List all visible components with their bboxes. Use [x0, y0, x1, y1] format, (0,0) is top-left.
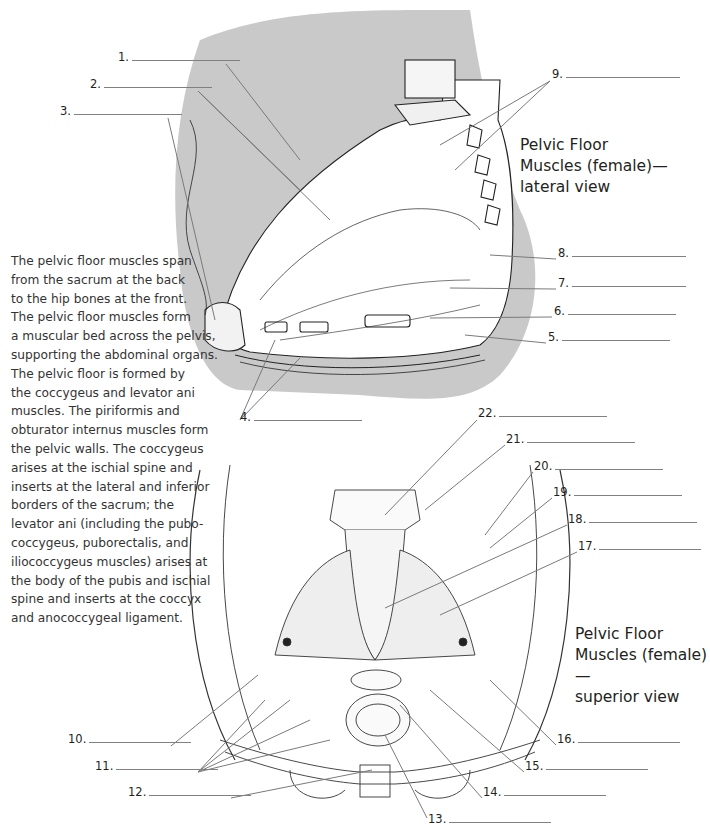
label-number: 17.	[578, 539, 596, 553]
label-number: 18.	[568, 512, 586, 526]
label-blank-6[interactable]: 6.	[554, 304, 676, 318]
answer-line[interactable]	[527, 441, 635, 443]
label-number: 21.	[506, 432, 524, 446]
description-line: the pelvic walls. The coccygeus	[11, 440, 236, 459]
answer-line[interactable]	[116, 768, 218, 770]
description-line: and anococcygeal ligament.	[11, 609, 236, 628]
label-blank-5[interactable]: 5.	[548, 330, 670, 344]
answer-line[interactable]	[562, 339, 670, 341]
title-line: Pelvic Floor	[575, 624, 710, 645]
answer-line[interactable]	[572, 255, 686, 257]
label-blank-7[interactable]: 7.	[558, 276, 686, 290]
answer-line[interactable]	[254, 419, 362, 421]
label-number: 16.	[557, 732, 575, 746]
answer-line[interactable]	[89, 741, 191, 743]
title-line: superior view	[575, 687, 710, 708]
description-line: The pelvic floor muscles form	[11, 308, 236, 327]
label-blank-10[interactable]: 10.	[68, 732, 191, 746]
label-number: 15.	[525, 759, 543, 773]
label-number: 5.	[548, 330, 559, 344]
title-line: Muscles (female)—	[520, 156, 668, 177]
label-number: 6.	[554, 304, 565, 318]
label-blank-18[interactable]: 18.	[568, 512, 697, 526]
answer-line[interactable]	[504, 794, 606, 796]
label-blank-19[interactable]: 19.	[553, 485, 682, 499]
description-line: arises at the ischial spine and	[11, 459, 236, 478]
label-number: 9.	[552, 67, 563, 81]
description-line: the body of the pubis and ischial	[11, 572, 236, 591]
answer-line[interactable]	[572, 285, 686, 287]
answer-line[interactable]	[568, 313, 676, 315]
description-line: coccygeus, puborectalis, and	[11, 534, 236, 553]
label-number: 7.	[558, 276, 569, 290]
label-number: 11.	[95, 759, 113, 773]
answer-line[interactable]	[74, 113, 182, 115]
answer-line[interactable]	[132, 59, 240, 61]
label-blank-13[interactable]: 13.	[428, 812, 551, 826]
description-line: muscles. The piriformis and	[11, 402, 236, 421]
description-line: iliococcygeus muscles) arises at	[11, 553, 236, 572]
answer-line[interactable]	[599, 548, 701, 550]
label-number: 3.	[60, 104, 71, 118]
superior-view-title: Pelvic Floor Muscles (female)— superior …	[575, 624, 710, 708]
label-number: 22.	[478, 406, 496, 420]
description-line: the coccygeus and levator ani	[11, 384, 236, 403]
label-blank-11[interactable]: 11.	[95, 759, 218, 773]
label-blank-17[interactable]: 17.	[578, 539, 701, 553]
label-blank-9[interactable]: 9.	[552, 67, 680, 81]
label-blank-2[interactable]: 2.	[90, 77, 212, 91]
label-number: 8.	[558, 246, 569, 260]
answer-line[interactable]	[555, 468, 663, 470]
label-blank-16[interactable]: 16.	[557, 732, 680, 746]
title-line: Pelvic Floor	[520, 135, 668, 156]
label-number: 12.	[128, 785, 146, 799]
label-blank-4[interactable]: 4.	[240, 410, 362, 424]
lateral-view-title: Pelvic Floor Muscles (female)— lateral v…	[520, 135, 668, 198]
label-blank-3[interactable]: 3.	[60, 104, 182, 118]
answer-line[interactable]	[499, 415, 607, 417]
answer-line[interactable]	[574, 494, 682, 496]
description-line: obturator internus muscles form	[11, 421, 236, 440]
label-number: 20.	[534, 459, 552, 473]
description-line: borders of the sacrum; the	[11, 496, 236, 515]
label-number: 19.	[553, 485, 571, 499]
answer-line[interactable]	[566, 76, 680, 78]
label-number: 10.	[68, 732, 86, 746]
description-line: to the hip bones at the front.	[11, 290, 236, 309]
title-line: lateral view	[520, 177, 668, 198]
description-line: levator ani (including the pubo-	[11, 515, 236, 534]
label-blank-22[interactable]: 22.	[478, 406, 607, 420]
label-blank-8[interactable]: 8.	[558, 246, 686, 260]
label-number: 2.	[90, 77, 101, 91]
answer-line[interactable]	[589, 521, 697, 523]
superior-pelvis-drawing	[190, 465, 570, 798]
answer-line[interactable]	[449, 821, 551, 823]
label-number: 4.	[240, 410, 251, 424]
label-blank-15[interactable]: 15.	[525, 759, 648, 773]
answer-line[interactable]	[149, 794, 251, 796]
label-blank-1[interactable]: 1.	[118, 50, 240, 64]
description-line: The pelvic floor muscles span	[11, 252, 236, 271]
label-number: 13.	[428, 812, 446, 826]
title-line: Muscles (female)—	[575, 645, 710, 687]
description-line: inserts at the lateral and inferior	[11, 478, 236, 497]
description-line: a muscular bed across the pelvis,	[11, 327, 236, 346]
description-line: from the sacrum at the back	[11, 271, 236, 290]
description-line: spine and inserts at the coccyx	[11, 590, 236, 609]
label-blank-12[interactable]: 12.	[128, 785, 251, 799]
answer-line[interactable]	[546, 768, 648, 770]
answer-line[interactable]	[578, 741, 680, 743]
label-blank-20[interactable]: 20.	[534, 459, 663, 473]
label-blank-21[interactable]: 21.	[506, 432, 635, 446]
label-number: 1.	[118, 50, 129, 64]
description-line: supporting the abdominal organs.	[11, 346, 236, 365]
description-text: The pelvic floor muscles span from the s…	[11, 252, 236, 628]
answer-line[interactable]	[104, 86, 212, 88]
description-line: The pelvic floor is formed by	[11, 365, 236, 384]
label-blank-14[interactable]: 14.	[483, 785, 606, 799]
label-number: 14.	[483, 785, 501, 799]
